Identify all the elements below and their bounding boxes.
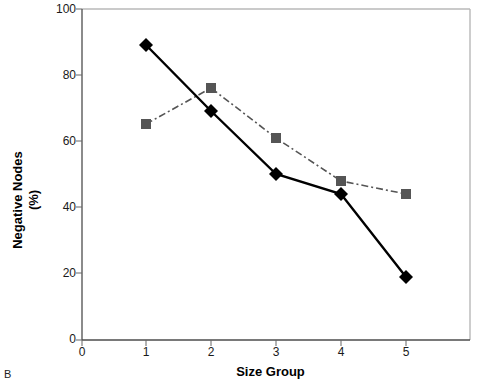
x-axis-tick-labels: 0 1 2 3 4 5 bbox=[0, 345, 479, 363]
data-point-s2-x2 bbox=[206, 83, 216, 93]
panel-letter: B bbox=[4, 368, 11, 380]
data-point-s2-x5 bbox=[401, 189, 411, 199]
data-point-s2-x4 bbox=[336, 176, 346, 186]
y-axis-ticks bbox=[76, 9, 82, 340]
plot-area bbox=[0, 0, 479, 386]
x-tick-label-3: 3 bbox=[264, 345, 288, 359]
x-axis-title: Size Group bbox=[0, 364, 479, 379]
data-point-s2-x3 bbox=[271, 133, 281, 143]
x-tick-label-5: 5 bbox=[394, 345, 418, 359]
x-tick-label-4: 4 bbox=[329, 345, 353, 359]
data-point-s2-x1 bbox=[141, 119, 151, 129]
x-tick-label-1: 1 bbox=[134, 345, 158, 359]
x-tick-label-2: 2 bbox=[199, 345, 223, 359]
series-dashdot-square-markers bbox=[141, 83, 411, 199]
x-tick-label-0: 0 bbox=[70, 345, 94, 359]
series-solid-diamond-markers bbox=[139, 38, 413, 284]
chart-figure: Negative Nodes (%) 100 80 60 40 20 0 bbox=[0, 0, 479, 386]
series-solid-diamond-line bbox=[146, 45, 406, 277]
